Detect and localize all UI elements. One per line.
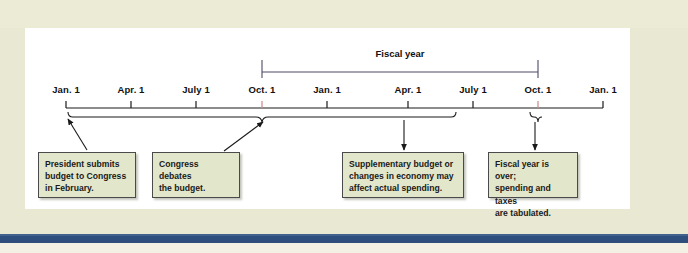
note-line: are tabulated.	[495, 207, 571, 219]
note-line: spending and taxes	[495, 182, 571, 206]
below-rule-strip	[0, 243, 688, 253]
note-supplementary-budget: Supplementary budget or changes in econo…	[342, 152, 464, 198]
note-line: Fiscal year is over;	[495, 158, 571, 182]
fiscal-year-label: Fiscal year	[375, 48, 424, 59]
note-line: changes in economy may	[349, 170, 457, 182]
note-fiscal-year-over: Fiscal year is over; spending and taxes …	[488, 152, 578, 198]
tick-label-jan-1-year1: Jan. 1	[52, 84, 80, 95]
note-line: Congress debates	[159, 158, 233, 182]
note-line: the budget.	[159, 182, 233, 194]
fiscal-year-bracket	[262, 60, 538, 78]
connector-to-note-president	[68, 119, 87, 150]
tick-label-jan-1-year3: Jan. 1	[589, 84, 617, 95]
note-line: budget to Congress	[45, 170, 129, 182]
timeline-axis	[66, 101, 603, 108]
connector-to-note-congress	[224, 122, 263, 151]
note-congress-debates: Congress debates the budget.	[152, 152, 240, 198]
note-line: President submits	[45, 158, 129, 170]
timeline-drawing	[0, 0, 688, 253]
note-president-submits: President submits budget to Congress in …	[38, 152, 136, 198]
tick-label-july-1-year2: July 1	[459, 84, 487, 95]
brace-budget-preparation	[68, 112, 456, 122]
brace-fiscal-year-end	[530, 112, 542, 122]
tick-label-apr-1-year1: Apr. 1	[118, 84, 145, 95]
note-line: affect actual spending.	[349, 182, 457, 194]
figure-container: Fiscal year Jan. 1 Apr. 1 July 1 Oct. 1 …	[0, 0, 688, 253]
tick-label-jan-1-year2: Jan. 1	[313, 84, 341, 95]
bottom-blue-rule-highlight	[0, 234, 688, 236]
tick-label-oct-1-year1: Oct. 1	[249, 84, 276, 95]
tick-label-july-1-year1: July 1	[182, 84, 210, 95]
tick-label-apr-1-year2: Apr. 1	[395, 84, 422, 95]
note-line: Supplementary budget or	[349, 158, 457, 170]
tick-label-oct-1-year2: Oct. 1	[525, 84, 552, 95]
note-line: in February.	[45, 182, 129, 194]
